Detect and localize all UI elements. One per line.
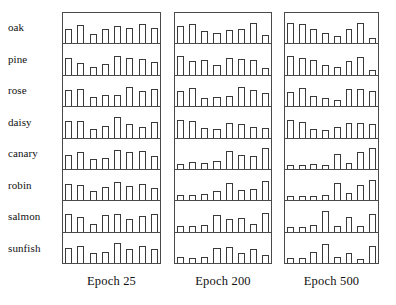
bar [346,193,353,200]
bar [151,122,158,137]
panel-row-salmon [175,201,271,232]
bar [334,100,341,106]
bar [322,33,329,43]
bar-group [65,172,158,200]
bar [346,29,353,44]
bar [213,215,220,232]
panel-row-sunfish [285,233,378,263]
bar [369,70,376,74]
bar-group [65,46,158,74]
bar [189,24,196,43]
bar [238,59,245,75]
bar-group [287,141,376,169]
bar [177,26,184,44]
bar [139,184,146,201]
bar-group [287,78,376,106]
column-caption-epoch-200: Epoch 200 [174,270,272,292]
bar [90,191,97,200]
bar [201,60,208,75]
bar [250,156,257,168]
bar [334,226,341,232]
panel-row-sunfish [175,233,271,263]
bar [322,130,329,137]
row-label-salmon: salmon [0,201,58,233]
bar [262,148,269,168]
bar [346,253,353,263]
bar-group [65,141,158,169]
bar [262,128,269,138]
bar [238,29,245,44]
bar [126,28,133,44]
bar [102,252,109,263]
bar [90,253,97,263]
row-label-oak: oak [0,12,58,44]
bar [177,120,184,138]
bar [213,97,220,106]
panel-row-daisy [175,107,271,138]
bar [213,248,220,263]
bar [114,117,121,137]
bar [102,215,109,231]
panel-row-canary [63,139,160,170]
panel-row-pine [285,44,378,75]
bar [250,90,257,106]
bar [250,249,257,263]
bar [287,92,294,106]
bar-group [287,172,376,200]
panel-row-oak [63,13,160,44]
bar [250,189,257,200]
bar [322,244,329,263]
bar [139,216,146,232]
bar [126,249,133,263]
panel-row-robin [285,170,378,201]
bar [322,98,329,106]
bar-group [177,203,269,231]
bar [102,64,109,74]
bar [90,67,97,75]
bar [77,246,84,263]
bar [126,87,133,106]
bar [357,89,364,106]
bar [114,56,121,75]
bar [102,95,109,106]
bar [357,57,364,75]
bar [310,60,317,74]
bar [90,34,97,43]
column-caption-epoch-500: Epoch 500 [284,270,379,292]
bar [213,65,220,75]
bar [77,217,84,232]
bar-group [65,109,158,137]
bar [189,121,196,138]
bar [299,165,306,169]
bar-group [287,109,376,137]
bar [189,162,196,169]
bar [262,68,269,75]
bar [357,259,364,263]
bar [369,124,376,138]
panel-row-pine [63,44,160,75]
panel-row-rose [175,76,271,107]
bar [226,30,233,44]
row-label-canary: canary [0,138,58,170]
bar-group [177,46,269,74]
bar [139,24,146,44]
bar [250,23,257,43]
panel-row-rose [285,76,378,107]
bar [151,28,158,43]
bar [262,213,269,232]
bar [357,123,364,137]
bar [238,87,245,106]
bar [238,124,245,138]
bar [139,246,146,263]
bar [189,88,196,106]
bar [226,247,233,263]
small-multiples-bar-figure: oak pine rose daisy canary robin salmon … [0,0,396,305]
bar [369,38,376,43]
bar [139,151,146,169]
bar [90,224,97,231]
bar [201,163,208,169]
panel-row-canary [285,139,378,170]
bar [90,129,97,138]
bar [77,185,84,200]
panel-row-canary [175,139,271,170]
